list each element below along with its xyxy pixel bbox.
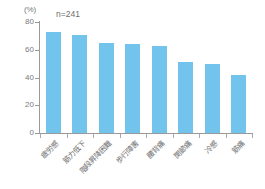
bar: [99, 43, 114, 133]
bar: [205, 64, 220, 133]
bar: [72, 35, 87, 134]
x-axis-tick: [93, 134, 94, 138]
bar: [46, 32, 61, 133]
bar: [178, 62, 193, 133]
y-axis-tick-label: 60: [6, 46, 34, 54]
bar: [231, 75, 246, 133]
x-axis-tick: [252, 134, 253, 138]
bar: [125, 44, 140, 133]
sample-size-annotation: n=241: [56, 9, 80, 19]
x-axis-tick: [67, 134, 68, 138]
x-axis-tick: [199, 134, 200, 138]
y-axis-tick-label: 80: [6, 18, 34, 26]
x-axis-tick: [146, 134, 147, 138]
y-axis-tick-label: 40: [6, 74, 34, 82]
y-axis-tick-label: 20: [6, 101, 34, 109]
bar: [152, 46, 167, 133]
x-axis-tick: [173, 134, 174, 138]
y-axis-tick-label: 0: [6, 129, 34, 137]
plot-area: [40, 22, 252, 133]
x-axis-tick: [40, 134, 41, 138]
bar-chart: (%) n=241 020406080 疲労感筋力低下階段昇降困難歩行障害腰背痛…: [0, 0, 265, 189]
y-axis-unit-label: (%): [24, 5, 36, 14]
x-axis-tick: [120, 134, 121, 138]
x-axis-category-label: 疲労感: [11, 140, 61, 189]
x-axis-tick: [226, 134, 227, 138]
